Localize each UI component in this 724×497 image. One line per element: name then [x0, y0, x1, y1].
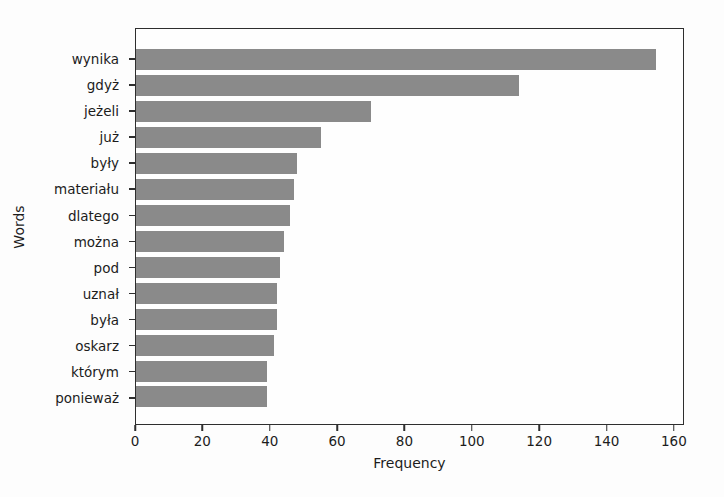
x-axis-title: Frequency: [135, 455, 684, 471]
x-tick-mark: [202, 425, 204, 431]
frequency-bar-można: [136, 231, 284, 252]
bar-row: [136, 177, 683, 203]
frequency-bar-wynika: [136, 49, 656, 70]
frequency-bar-dlatego: [136, 205, 290, 226]
bar-row: [136, 203, 683, 229]
bar-row: [136, 358, 683, 384]
category-label-row: dlatego: [0, 202, 129, 228]
bar-row: [136, 228, 683, 254]
category-label-row: uznał: [0, 281, 129, 307]
category-label: oskarz: [75, 338, 119, 354]
frequency-bar-była: [136, 309, 277, 330]
category-label: już: [100, 129, 119, 145]
x-tick-label: 120: [526, 433, 552, 449]
category-label-row: pod: [0, 255, 129, 281]
category-label: jeżeli: [84, 103, 119, 119]
category-label-row: materiału: [0, 176, 129, 202]
bar-row: [136, 306, 683, 332]
x-ticks: [135, 425, 684, 431]
x-tick-label: 100: [459, 433, 485, 449]
frequency-bar-materiału: [136, 179, 294, 200]
category-label: można: [74, 234, 119, 250]
category-label-row: gdyż: [0, 72, 129, 98]
bar-row: [136, 254, 683, 280]
bars-container: [136, 29, 683, 424]
category-label: ponieważ: [55, 390, 119, 406]
frequency-bar-którym: [136, 361, 267, 382]
x-tick-mark: [606, 425, 608, 431]
category-label: pod: [94, 260, 119, 276]
bar-row: [136, 47, 683, 73]
frequency-bar-były: [136, 153, 297, 174]
category-label: materiału: [54, 181, 119, 197]
category-label-row: wynika: [0, 46, 129, 72]
x-tick-mark: [269, 425, 271, 431]
category-label-row: były: [0, 150, 129, 176]
figure-root: Words wynikagdyżjeżelijużbyłymateriałudl…: [0, 0, 724, 497]
frequency-bar-już: [136, 127, 321, 148]
x-tick-label: 20: [194, 433, 211, 449]
category-label-row: można: [0, 229, 129, 255]
category-label-row: którym: [0, 359, 129, 385]
category-label: były: [91, 155, 119, 171]
category-label: dlatego: [68, 208, 119, 224]
bar-row: [136, 125, 683, 151]
frequency-bar-gdyż: [136, 75, 519, 96]
bar-row: [136, 384, 683, 410]
x-tick-mark: [538, 425, 540, 431]
frequency-bar-ponieważ: [136, 386, 267, 407]
category-label-row: oskarz: [0, 333, 129, 359]
frequency-bar-pod: [136, 257, 280, 278]
frequency-bar-jeżeli: [136, 101, 371, 122]
x-tick-mark: [673, 425, 675, 431]
x-tick-mark: [404, 425, 406, 431]
category-label-row: już: [0, 124, 129, 150]
x-tick-label: 140: [594, 433, 620, 449]
frequency-bar-oskarz: [136, 335, 274, 356]
bar-row: [136, 332, 683, 358]
category-label: wynika: [72, 51, 119, 67]
bar-row: [136, 151, 683, 177]
category-label-row: jeżeli: [0, 98, 129, 124]
y-labels: wynikagdyżjeżelijużbyłymateriałudlategom…: [0, 28, 129, 425]
category-label: gdyż: [87, 77, 119, 93]
bar-row: [136, 280, 683, 306]
x-tick-label: 0: [131, 433, 140, 449]
category-label: którym: [71, 364, 119, 380]
category-label: była: [90, 312, 119, 328]
x-tick-mark: [471, 425, 473, 431]
plot-area: [135, 28, 684, 425]
category-label-row: ponieważ: [0, 385, 129, 411]
x-tick-label: 160: [661, 433, 687, 449]
category-label-row: była: [0, 307, 129, 333]
category-label: uznał: [83, 286, 119, 302]
x-tick-label: 80: [396, 433, 413, 449]
bar-row: [136, 99, 683, 125]
x-tick-label: 60: [328, 433, 345, 449]
frequency-bar-uznał: [136, 283, 277, 304]
bar-row: [136, 73, 683, 99]
x-tick-mark: [134, 425, 136, 431]
x-tick-label: 40: [261, 433, 278, 449]
x-tick-mark: [336, 425, 338, 431]
x-tick-labels: 020406080100120140160: [135, 433, 684, 450]
